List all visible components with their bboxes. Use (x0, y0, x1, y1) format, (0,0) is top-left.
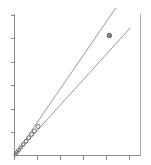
data-point (32, 129, 36, 133)
fit-lines-group (15, 8, 131, 156)
axes-group (14, 14, 141, 156)
outlier-data-point (107, 33, 111, 37)
data-point (36, 124, 40, 128)
y-axis-ticks (11, 16, 15, 133)
scatter-plot (0, 0, 151, 165)
data-markers-group (14, 33, 112, 156)
chart-figure (0, 0, 151, 165)
x-axis-ticks (15, 156, 130, 160)
